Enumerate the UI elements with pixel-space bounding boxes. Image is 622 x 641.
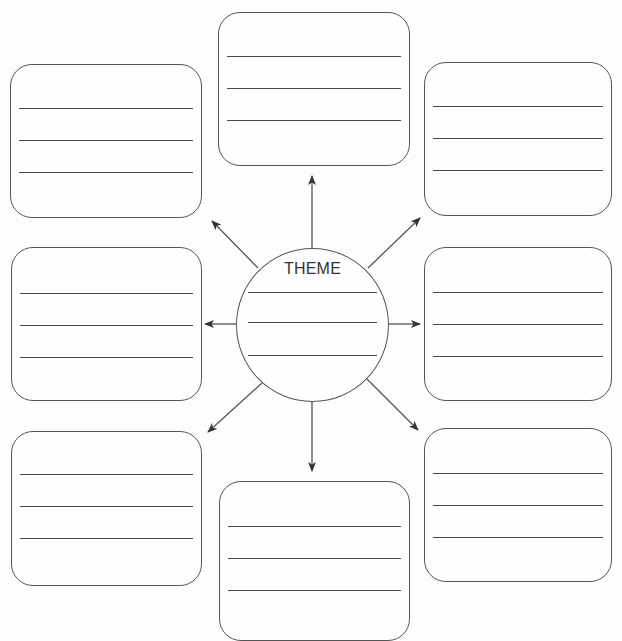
writing-line[interactable] [433,505,603,506]
theme-circle: THEME [236,248,389,402]
writing-line[interactable] [228,526,401,527]
writing-line[interactable] [433,106,603,107]
writing-line[interactable] [20,325,193,326]
writing-line[interactable] [20,474,193,475]
writing-line[interactable] [248,292,377,293]
box-top-left [10,64,202,218]
box-top-center [218,12,410,166]
writing-line[interactable] [228,590,401,591]
writing-line[interactable] [20,357,193,358]
writing-line[interactable] [19,172,193,173]
box-bottom-center [219,481,410,641]
writing-line[interactable] [227,56,401,57]
writing-line[interactable] [433,324,603,325]
box-bottom-right [424,428,612,582]
theme-label: THEME [237,260,388,278]
writing-line[interactable] [433,356,603,357]
writing-line[interactable] [20,538,193,539]
box-bottom-left [11,431,202,586]
arrow-to-bottom-left [208,383,262,432]
writing-line[interactable] [20,293,193,294]
writing-line[interactable] [433,473,603,474]
arrow-to-bottom-right [367,379,418,430]
writing-line[interactable] [20,506,193,507]
writing-line[interactable] [248,322,377,323]
box-middle-right [424,247,612,401]
writing-line[interactable] [433,292,603,293]
writing-line[interactable] [433,537,603,538]
box-middle-left [11,247,202,401]
writing-line[interactable] [227,120,401,121]
writing-line[interactable] [19,108,193,109]
box-top-right [424,62,612,216]
writing-line[interactable] [433,138,603,139]
writing-line[interactable] [227,88,401,89]
writing-line[interactable] [248,355,377,356]
writing-line[interactable] [19,140,193,141]
writing-line[interactable] [228,558,401,559]
writing-line[interactable] [433,170,603,171]
